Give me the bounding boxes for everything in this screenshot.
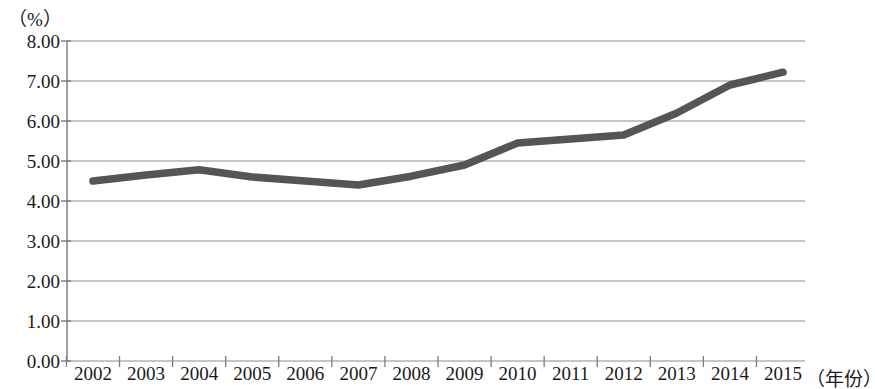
- x-axis-tick-label: 2005: [233, 364, 271, 383]
- x-axis-tick-label: 2003: [127, 364, 165, 383]
- data-series-line: [93, 72, 783, 185]
- x-axis-tick-label: 2008: [392, 364, 430, 383]
- x-axis-tick-label: 2013: [658, 364, 696, 383]
- line-chart: （%） 8.007.006.005.004.003.002.001.000.00…: [0, 0, 875, 389]
- x-axis-tick-label: 2010: [499, 364, 537, 383]
- x-axis-tick-label: 2009: [446, 364, 484, 383]
- x-axis-tick-label: 2006: [286, 364, 324, 383]
- x-axis-tick-label: 2007: [339, 364, 377, 383]
- x-axis-tick-label: 2014: [711, 364, 749, 383]
- x-axis-tick-label: 2015: [764, 364, 802, 383]
- plot-area: [0, 0, 875, 389]
- x-axis-tick-label: 2002: [74, 364, 112, 383]
- x-axis-tick-label: 2004: [180, 364, 218, 383]
- x-axis-tick-label: 2011: [552, 364, 589, 383]
- x-axis-tick-label: 2012: [605, 364, 643, 383]
- x-axis-title: （年份）: [806, 364, 875, 389]
